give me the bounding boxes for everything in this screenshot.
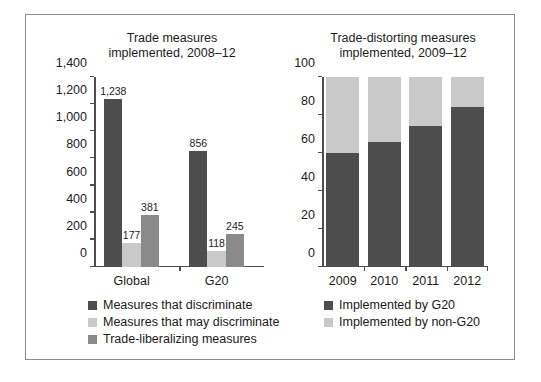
y-axis-tick-label: 80 (301, 94, 315, 108)
legend-item: Measures that discriminate (88, 297, 279, 314)
chart-title-line2: implemented, 2008–12 (60, 46, 284, 61)
stacked-bar-segment (368, 77, 401, 142)
y-axis-tick (318, 266, 322, 268)
legend-label: Measures that may discriminate (103, 314, 279, 331)
stacked-bar-segment (326, 77, 359, 153)
x-axis-tick (447, 267, 449, 271)
y-axis-tick (90, 238, 94, 240)
chart-panel-trade-measures: Trade measures implemented, 2008–12 0200… (26, 15, 284, 359)
bar-value-label: 381 (141, 201, 159, 213)
chart-title-line1: Trade-distorting measures (292, 31, 514, 46)
legend-item: Implemented by non-G20 (324, 314, 480, 331)
y-axis-tick (90, 157, 94, 159)
y-axis-tick-label: 40 (301, 170, 315, 184)
y-axis-tick-label: 1,200 (56, 83, 87, 97)
legend-trade-measures: Measures that discriminateMeasures that … (88, 297, 279, 348)
bar: 1,238 (104, 99, 122, 267)
legend-item: Measures that may discriminate (88, 314, 279, 331)
legend-item: Implemented by G20 (324, 297, 480, 314)
y-axis-line-right (322, 77, 324, 267)
legend-swatch (88, 301, 97, 310)
bar: 177 (122, 243, 140, 267)
x-axis-tick (364, 267, 366, 271)
y-axis-tick (90, 130, 94, 132)
bar-value-label: 177 (123, 229, 141, 241)
legend-swatch (324, 301, 333, 310)
chart-title-line2: implemented, 2009–12 (292, 46, 514, 61)
plot-area-trade-measures: 02004006008001,0001,2001,400 GlobalG20 1… (94, 77, 264, 267)
x-axis-tick (179, 267, 181, 271)
figure-frame: Trade measures implemented, 2008–12 0200… (25, 14, 515, 360)
stacked-bar (409, 77, 442, 267)
legend-swatch (324, 318, 333, 327)
stacked-bar-segment (451, 107, 484, 267)
chart-panel-trade-distorting: Trade-distorting measures implemented, 2… (284, 15, 514, 359)
bar: 245 (226, 234, 244, 267)
bar: 381 (141, 215, 159, 267)
chart-title-line1: Trade measures (60, 31, 284, 46)
legend-label: Trade-liberalizing measures (103, 331, 257, 348)
y-axis-tick-label: 800 (66, 137, 87, 151)
x-axis-category-label: 2009 (329, 274, 357, 288)
bar: 118 (207, 251, 225, 267)
stacked-bar (326, 77, 359, 267)
chart-title-trade-distorting: Trade-distorting measures implemented, 2… (284, 31, 514, 61)
bar-value-label: 118 (208, 237, 225, 249)
stacked-bar (368, 77, 401, 267)
y-axis-tick (318, 152, 322, 154)
x-axis-tick (487, 267, 489, 271)
y-axis-tick (318, 228, 322, 230)
bar: 856 (189, 151, 207, 267)
stacked-bar (451, 77, 484, 267)
bar-value-label: 1,238 (100, 85, 126, 97)
x-axis-tick (405, 267, 407, 271)
legend-item: Trade-liberalizing measures (88, 331, 279, 348)
legend-label: Implemented by non-G20 (339, 314, 480, 331)
stacked-bar-segment (451, 77, 484, 107)
legend-trade-distorting: Implemented by G20Implemented by non-G20 (324, 297, 480, 331)
x-axis-category-label: G20 (205, 274, 229, 288)
x-axis-category-label: 2012 (453, 274, 481, 288)
y-axis-tick (318, 190, 322, 192)
stacked-bar-segment (326, 153, 359, 267)
y-axis-tick-label: 0 (80, 246, 87, 260)
y-axis-tick-label: 0 (308, 246, 315, 260)
y-axis-tick-label: 600 (66, 165, 87, 179)
legend-swatch (88, 318, 97, 327)
y-axis-tick (90, 184, 94, 186)
y-axis-tick-label: 1,400 (56, 56, 87, 70)
bar-value-label: 856 (190, 137, 208, 149)
x-axis-category-label: 2011 (412, 274, 439, 288)
y-axis-tick (90, 76, 94, 78)
y-axis-tick-label: 1,000 (56, 110, 87, 124)
legend-swatch (88, 335, 97, 344)
legend-label: Measures that discriminate (103, 297, 252, 314)
y-axis-line-left (94, 77, 96, 267)
x-axis-category-label: 2010 (370, 274, 398, 288)
bar-value-label: 245 (226, 220, 244, 232)
stacked-bar-segment (368, 142, 401, 267)
x-axis-category-label: Global (114, 274, 150, 288)
y-axis-tick (90, 211, 94, 213)
stacked-bar-segment (409, 77, 442, 126)
y-axis-tick (318, 76, 322, 78)
y-axis-tick (90, 103, 94, 105)
y-axis-tick-label: 20 (301, 208, 315, 222)
y-axis-tick (318, 114, 322, 116)
plot-area-trade-distorting: 020406080100 2009201020112012 (322, 77, 488, 267)
legend-label: Implemented by G20 (339, 297, 455, 314)
y-axis-tick-label: 200 (66, 219, 87, 233)
y-axis-tick-label: 60 (301, 132, 315, 146)
stacked-bar-segment (409, 126, 442, 267)
y-axis-tick-label: 400 (66, 192, 87, 206)
y-axis-tick-label: 100 (294, 56, 315, 70)
y-axis-tick (90, 266, 94, 268)
